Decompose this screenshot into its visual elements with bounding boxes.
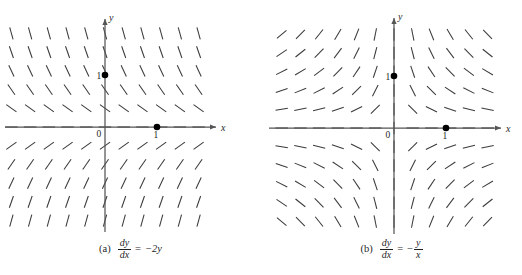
slope-segment — [410, 160, 416, 171]
slope-segment — [120, 84, 127, 94]
slope-segment — [178, 46, 182, 58]
slope-segment — [122, 46, 126, 58]
slope-segment — [178, 27, 181, 39]
slope-segment — [62, 142, 72, 149]
slope-segment — [28, 46, 32, 58]
marked-points — [391, 73, 450, 132]
slope-segment — [411, 197, 414, 209]
slope-segment — [464, 68, 474, 76]
axes — [5, 19, 216, 232]
slope-segment — [196, 65, 201, 76]
derivative-fraction-a: dy dx — [118, 238, 131, 260]
slope-segment — [177, 177, 182, 188]
slope-segment — [196, 177, 201, 188]
slope-segment — [28, 215, 31, 227]
slope-segment — [140, 177, 145, 188]
slope-segment — [84, 177, 89, 188]
slope-segment — [411, 178, 415, 190]
slope-segment — [333, 162, 343, 169]
slope-segment — [426, 144, 437, 150]
slope-segment — [429, 29, 434, 41]
slope-segment — [121, 177, 126, 188]
figure-root: xy011 (a) dy dx = −2y xy011 (b) dy dx — [0, 0, 522, 275]
slope-segment — [140, 46, 144, 58]
y-axis-arrowhead — [391, 18, 396, 24]
slope-segment — [313, 145, 325, 148]
x-axis-label: x — [220, 122, 226, 133]
derivative-denominator-a: dx — [118, 250, 131, 261]
rhs-minus-sign-b: − — [407, 244, 413, 255]
equation-a: dy dx = −2y — [118, 238, 162, 260]
slope-segment — [122, 196, 126, 208]
slope-segment — [463, 108, 475, 111]
slope-segment — [176, 84, 183, 94]
slope-segment — [372, 85, 378, 96]
slope-segment — [194, 142, 204, 149]
slope-segment — [294, 145, 306, 147]
slope-segment — [46, 177, 51, 188]
slope-segment — [315, 30, 323, 40]
slope-segment — [464, 49, 473, 58]
slope-segment — [139, 159, 146, 169]
slope-segment — [25, 105, 35, 112]
slope-segment — [315, 198, 324, 207]
y-axis-label: y — [108, 12, 114, 23]
x-tick-label-1: 1 — [443, 131, 448, 141]
slope-segment — [314, 68, 324, 76]
slope-segment — [410, 85, 416, 96]
slope-segment — [446, 48, 454, 58]
slope-segment — [277, 218, 287, 226]
slope-segment — [66, 215, 69, 227]
slope-segment — [119, 105, 129, 112]
slope-segment — [197, 46, 201, 58]
slope-segment — [373, 66, 377, 78]
slope-segment — [141, 27, 144, 39]
slope-segment — [464, 198, 473, 207]
slope-segment — [333, 67, 342, 76]
slope-segment — [195, 159, 202, 169]
slope-segment — [156, 105, 166, 112]
marked-point — [102, 72, 109, 79]
slope-segment — [83, 84, 90, 94]
slope-segment — [119, 142, 129, 149]
x-axis-label: x — [505, 123, 511, 134]
slope-segment — [139, 84, 146, 94]
slope-segment — [482, 181, 493, 187]
slope-segment — [194, 105, 204, 112]
marked-point — [443, 125, 450, 132]
slope-segment — [47, 46, 51, 58]
slope-segment — [314, 180, 324, 188]
caption-a: (a) dy dx = −2y — [0, 238, 261, 275]
slope-segment — [8, 159, 15, 169]
slope-segment — [84, 46, 88, 58]
slope-segment — [296, 217, 305, 226]
equation-rhs-a: −2y — [145, 244, 162, 255]
slope-segment — [197, 215, 200, 227]
derivative-numerator-b: dy — [380, 238, 393, 250]
slope-segment — [44, 142, 54, 149]
slope-segment — [27, 177, 32, 188]
slope-segment — [352, 161, 361, 170]
equation-rhs-b: − y x — [407, 238, 422, 260]
slope-segment — [9, 46, 13, 58]
caption-tag-b: (b) — [361, 238, 373, 255]
slope-segment — [482, 163, 494, 168]
slope-segment — [295, 69, 306, 75]
slope-segment — [444, 107, 456, 111]
y-axis-label: y — [397, 11, 403, 22]
marked-point — [391, 73, 398, 80]
slope-segment — [9, 177, 14, 188]
slope-segment — [463, 163, 474, 169]
slope-segment — [354, 197, 360, 208]
slope-segment — [444, 145, 456, 149]
slope-segment — [276, 181, 287, 187]
slope-segment — [334, 48, 342, 58]
slope-segment — [296, 30, 305, 39]
slope-segment — [6, 142, 16, 149]
slope-segment — [411, 47, 414, 59]
slope-segment — [482, 88, 494, 93]
slope-segment — [373, 178, 377, 190]
slope-segment — [276, 69, 287, 75]
slope-segment — [411, 28, 413, 40]
slope-field-plot-b: xy011 — [261, 0, 522, 240]
